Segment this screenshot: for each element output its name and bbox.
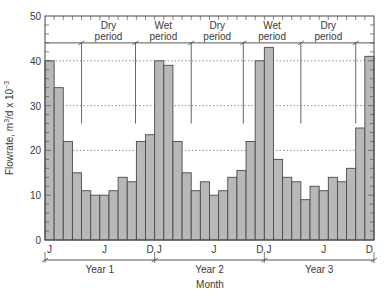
period-label: Wet bbox=[155, 20, 173, 31]
year-label: Year 3 bbox=[305, 264, 334, 275]
bar bbox=[63, 141, 72, 240]
y-tick-label: 50 bbox=[30, 11, 42, 22]
period-label: Dry bbox=[321, 20, 337, 31]
period-annotations: DryperiodWetperiodDryperiodWetperiodDryp… bbox=[45, 20, 374, 124]
bar bbox=[109, 191, 118, 240]
bar bbox=[100, 195, 109, 240]
bars bbox=[45, 47, 374, 240]
x-month-label: J bbox=[102, 244, 107, 255]
bar bbox=[356, 128, 365, 240]
bar bbox=[310, 186, 319, 240]
x-month-label: J bbox=[157, 244, 162, 255]
bar bbox=[127, 182, 136, 240]
bar bbox=[264, 47, 273, 240]
gridlines bbox=[45, 61, 374, 151]
bar bbox=[82, 191, 91, 240]
bar bbox=[164, 65, 173, 240]
y-axis-label: Flowrate, m3/d x 10−3 bbox=[3, 81, 15, 175]
x-month-label: D bbox=[146, 244, 153, 255]
bar bbox=[365, 56, 374, 240]
bar bbox=[155, 61, 164, 240]
bar bbox=[200, 182, 209, 240]
period-label: Dry bbox=[209, 20, 225, 31]
period-label: period bbox=[149, 31, 177, 42]
x-month-label: J bbox=[47, 244, 52, 255]
bar bbox=[255, 61, 264, 240]
bar bbox=[228, 177, 237, 240]
y-tick-label: 20 bbox=[30, 145, 42, 156]
bar bbox=[301, 200, 310, 240]
y-tick-label: 40 bbox=[30, 56, 42, 67]
period-label: Wet bbox=[263, 20, 281, 31]
year-brackets: Year 1Year 2Year 3 bbox=[42, 252, 377, 275]
y-tick-label: 10 bbox=[30, 190, 42, 201]
bar bbox=[191, 191, 200, 240]
bar bbox=[347, 168, 356, 240]
period-label: period bbox=[314, 31, 342, 42]
bar bbox=[210, 195, 219, 240]
x-month-label: J bbox=[212, 244, 217, 255]
bar bbox=[273, 159, 282, 240]
year-label: Year 2 bbox=[195, 264, 224, 275]
bar bbox=[328, 177, 337, 240]
flowrate-bar-chart: DryperiodWetperiodDryperiodWetperiodDryp… bbox=[0, 0, 389, 302]
bar bbox=[54, 88, 63, 240]
x-axis-month-labels: JJDJJDJJD bbox=[47, 244, 373, 255]
x-month-label: D bbox=[256, 244, 263, 255]
period-label: Dry bbox=[101, 20, 117, 31]
bar bbox=[246, 141, 255, 240]
bar bbox=[283, 177, 292, 240]
period-label: period bbox=[258, 31, 286, 42]
bar bbox=[319, 191, 328, 240]
period-label: period bbox=[203, 31, 231, 42]
bar bbox=[337, 182, 346, 240]
bar bbox=[237, 171, 246, 240]
bar bbox=[219, 191, 228, 240]
bar bbox=[91, 195, 100, 240]
year-label: Year 1 bbox=[86, 264, 115, 275]
y-tick-label: 0 bbox=[35, 235, 41, 246]
bar bbox=[292, 182, 301, 240]
x-month-label: J bbox=[266, 244, 271, 255]
period-label: period bbox=[95, 31, 123, 42]
bar bbox=[182, 173, 191, 240]
y-tick-label: 30 bbox=[30, 101, 42, 112]
x-month-label: D bbox=[366, 244, 373, 255]
x-month-label: J bbox=[321, 244, 326, 255]
bar bbox=[118, 177, 127, 240]
bar bbox=[146, 135, 155, 240]
y-axis-ticks: 01020304050 bbox=[30, 11, 42, 246]
x-axis-label: Month bbox=[196, 279, 224, 290]
bar bbox=[72, 173, 81, 240]
bar bbox=[173, 141, 182, 240]
bar bbox=[136, 141, 145, 240]
